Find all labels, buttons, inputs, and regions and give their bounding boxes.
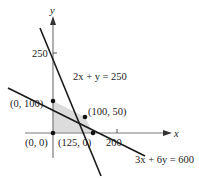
line-label-2x-plus-y: 2x + y = 250 (73, 71, 127, 82)
vertex-label-origin: (0, 0) (25, 137, 48, 149)
vertex-label-0-100: (0, 100) (10, 98, 44, 110)
y-axis-label: y (49, 5, 55, 16)
y-axis-arrow-icon (50, 16, 56, 25)
vertex-label-100-50: (100, 50) (88, 106, 127, 118)
x-axis-arrow-icon (163, 130, 172, 136)
vertex-125-0 (91, 131, 96, 136)
line-2x-plus-y-250 (40, 28, 101, 176)
x-axis-label: x (173, 128, 179, 139)
vertex-origin (51, 131, 56, 136)
line-label-3x-plus-6y: 3x + 6y = 600 (135, 154, 194, 165)
y-tick-label: 250 (32, 48, 48, 59)
vertex-label-125-0: (125, 0) (58, 137, 92, 149)
vertex-100-50 (83, 115, 88, 120)
vertex-0-100 (51, 99, 56, 104)
x-tick-label: 200 (106, 137, 122, 148)
linear-programming-graph: y x 250 200 2x + y = 250 3x + 6y = 600 (… (0, 0, 199, 178)
